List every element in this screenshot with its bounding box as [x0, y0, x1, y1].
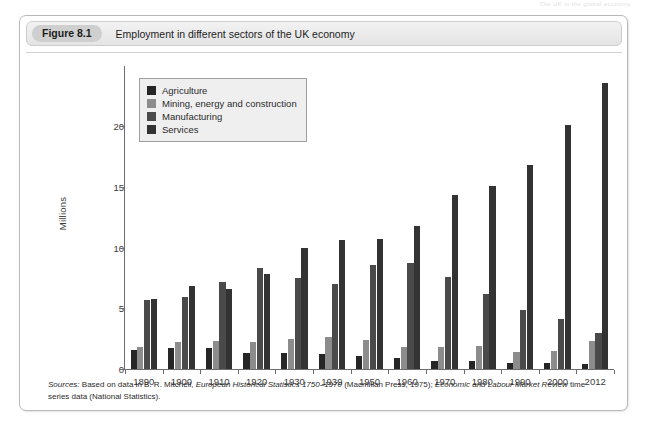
y-tick-mark [120, 187, 125, 188]
legend-swatch-icon [147, 125, 156, 134]
y-tick-label: 5 [88, 304, 124, 314]
bar [469, 361, 475, 369]
header-divider [26, 52, 622, 53]
figure-box: Figure 8.1 Employment in different secto… [19, 15, 628, 411]
bar [407, 263, 413, 369]
bar [520, 310, 526, 369]
bar [137, 347, 143, 369]
x-axis-line [124, 369, 614, 370]
y-tick-mark [120, 126, 125, 127]
legend-item-label: Services [162, 125, 198, 135]
x-tick-mark [351, 370, 352, 374]
x-tick-mark [313, 370, 314, 374]
sources-lead: Sources: [48, 380, 80, 389]
x-tick-mark [163, 370, 164, 374]
x-tick-mark [238, 370, 239, 374]
figure-header: Figure 8.1 Employment in different secto… [26, 21, 622, 46]
bar [401, 347, 407, 369]
x-tick-mark [464, 370, 465, 374]
bar [257, 268, 263, 369]
x-tick-mark [539, 370, 540, 374]
figure-sources: Sources: Based on data in B. R. Mitchell… [48, 379, 608, 404]
x-tick-mark [501, 370, 502, 374]
bar [288, 339, 294, 369]
legend-swatch-icon [147, 86, 156, 95]
bar [281, 353, 287, 369]
bar [483, 294, 489, 369]
bar [151, 299, 157, 369]
sources-part1: Based on data in B. R. Mitchell, [80, 380, 196, 389]
bar [213, 341, 219, 369]
y-tick-label: 15 [88, 183, 124, 193]
x-tick-mark [275, 370, 276, 374]
bar [175, 342, 181, 369]
bar [507, 363, 513, 369]
bar [243, 353, 249, 369]
bar [226, 289, 232, 369]
bar [206, 348, 212, 369]
bar [168, 348, 174, 369]
y-tick-label: 0 [88, 365, 124, 375]
x-tick-mark [426, 370, 427, 374]
y-tick-mark [120, 308, 125, 309]
running-head: The UK in the global economy [539, 1, 631, 7]
legend-item-label: Manufacturing [162, 112, 222, 122]
bar [301, 248, 307, 369]
bar [131, 350, 137, 369]
bar [513, 352, 519, 369]
bar [264, 274, 270, 369]
bar [182, 297, 188, 369]
bar [144, 300, 150, 369]
bar [602, 83, 608, 370]
x-tick-mark [576, 370, 577, 374]
bar [595, 333, 601, 369]
legend-item-label: Mining, energy and construction [162, 99, 297, 109]
legend-item: Agriculture [147, 84, 297, 97]
bar [339, 240, 345, 369]
x-tick-mark [388, 370, 389, 374]
figure-page: The UK in the global economy Figure 8.1 … [0, 0, 647, 429]
bar [558, 319, 564, 369]
bar [565, 125, 571, 369]
bar [438, 347, 444, 369]
bar [452, 195, 458, 369]
bar [370, 265, 376, 369]
x-tick-mark [614, 370, 615, 374]
bar [582, 364, 588, 369]
bar [414, 226, 420, 369]
bar [332, 284, 338, 369]
bar [250, 342, 256, 369]
bar [377, 239, 383, 369]
legend-item: Mining, energy and construction [147, 97, 297, 110]
bar [394, 358, 400, 369]
bar [356, 356, 362, 369]
bar [295, 278, 301, 369]
legend-item: Services [147, 123, 297, 136]
sources-italic2: Economic and Labour Market Review [435, 380, 568, 389]
bar [431, 361, 437, 369]
x-tick-mark [200, 370, 201, 374]
legend-item: Manufacturing [147, 110, 297, 123]
sources-italic1: European Historical Statistics 1750–1970 [196, 380, 342, 389]
bar [489, 186, 495, 369]
bar [325, 337, 331, 369]
bar [363, 340, 369, 369]
legend-swatch-icon [147, 99, 156, 108]
legend-item-label: Agriculture [162, 86, 207, 96]
y-axis-title: Millions [57, 174, 68, 254]
bar [445, 277, 451, 369]
bar [476, 346, 482, 369]
figure-title: Employment in different sectors of the U… [116, 28, 355, 40]
bar [589, 341, 595, 369]
bar [544, 363, 550, 369]
legend-swatch-icon [147, 112, 156, 121]
bar [551, 351, 557, 369]
bar [527, 165, 533, 369]
chart-plot-area: Millions 05101520 1890190019101920193019… [26, 56, 622, 376]
bar [219, 282, 225, 369]
chart-legend: AgricultureMining, energy and constructi… [139, 78, 307, 142]
y-tick-label: 10 [88, 244, 124, 254]
y-axis-line [124, 66, 125, 369]
y-tick-label: 20 [88, 122, 124, 132]
bar [189, 286, 195, 369]
